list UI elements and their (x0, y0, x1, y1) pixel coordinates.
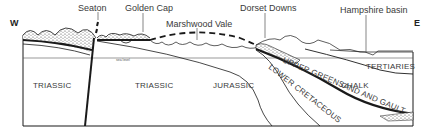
sea-level-label: sea level (116, 58, 130, 62)
east-gravel-patch (380, 112, 413, 121)
golden-cap-outcrop (97, 33, 150, 43)
cross-section-diagram: sea level (0, 0, 433, 133)
jurassic-label: JURASSIC (213, 81, 254, 90)
triassic-west-label: TRIASSIC (33, 81, 72, 90)
east-label: E (414, 18, 420, 28)
marshwood-vale-surface (150, 40, 258, 48)
tertiaries-label: TERTIARIES (366, 62, 415, 71)
chalk-label: CHALK (341, 81, 369, 90)
golden-cap-label: Golden Cap (125, 3, 173, 13)
triassic-east-label: TRIASSIC (135, 81, 174, 90)
dorset-downs-label: Dorset Downs (240, 3, 297, 13)
west-label: W (10, 18, 19, 28)
hampshire-basin-surface (330, 50, 413, 55)
seaton-label: Seaton (78, 3, 107, 13)
hampshire-basin-label: Hampshire basin (340, 5, 408, 15)
leader-lines (98, 12, 366, 52)
marshwood-vale-label: Marshwood Vale (166, 19, 232, 29)
west-surface (23, 28, 96, 55)
dorset-downs-surface (256, 35, 413, 52)
sea-level-line: sea level (23, 58, 413, 62)
